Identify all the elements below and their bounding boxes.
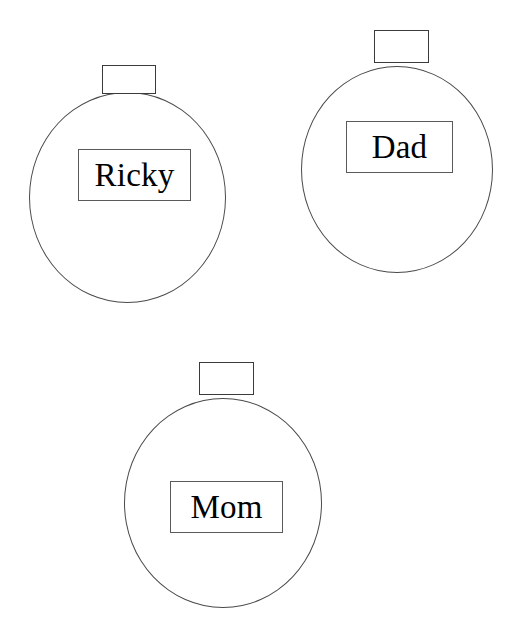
name-plate-label: Dad	[372, 131, 428, 164]
ornament-cap-icon	[374, 30, 429, 63]
name-plate-mom[interactable]: Mom	[170, 481, 283, 533]
ornament-canvas: Ricky Dad Mom	[0, 0, 518, 626]
name-plate-label: Ricky	[95, 159, 175, 192]
ornament-cap-icon	[199, 362, 254, 395]
name-plate-ricky[interactable]: Ricky	[78, 149, 191, 201]
name-plate-dad[interactable]: Dad	[346, 121, 453, 173]
ornament-cap-icon	[102, 65, 156, 94]
name-plate-label: Mom	[190, 491, 262, 524]
